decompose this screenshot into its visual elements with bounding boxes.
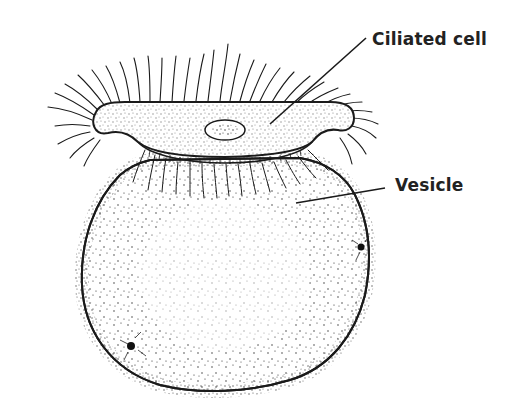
vesicle xyxy=(82,158,369,391)
label-vesicle: Vesicle xyxy=(395,175,464,195)
diagram-figure xyxy=(0,0,522,417)
label-ciliated-cell: Ciliated cell xyxy=(372,29,487,49)
